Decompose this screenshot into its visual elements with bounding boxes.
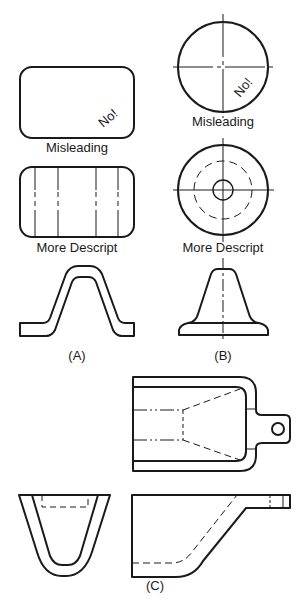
- view-b-descriptive: More Descript: [173, 138, 274, 255]
- view-a-descriptive: More Descript: [20, 167, 134, 255]
- no-annotation: No!: [231, 75, 255, 100]
- hanging-hole: [272, 423, 284, 435]
- label-c: (C): [146, 578, 164, 593]
- hidden-taper-upper: [183, 389, 240, 410]
- label-b: (B): [214, 348, 231, 363]
- descriptive-caption: More Descript: [37, 240, 118, 255]
- rounded-rectangle-outline: [20, 167, 134, 237]
- hat-profile-outline: [20, 266, 134, 336]
- hidden-inner-contour: [132, 495, 237, 563]
- misleading-caption: Misleading: [192, 114, 254, 129]
- profile-b: (B): [179, 258, 268, 363]
- no-annotation: No!: [95, 106, 120, 130]
- view-b-misleading: No! Misleading: [173, 14, 274, 129]
- view-c-front: [19, 495, 110, 576]
- profile-a: (A): [20, 266, 134, 363]
- view-c-side: (C): [132, 495, 290, 593]
- hidden-taper-lower: [183, 440, 240, 460]
- view-a-misleading: No! Misleading: [20, 67, 134, 155]
- side-outline: [132, 495, 290, 577]
- rounded-rectangle-outline: [20, 67, 134, 138]
- misleading-caption: Misleading: [46, 140, 108, 155]
- descriptive-caption: More Descript: [183, 240, 264, 255]
- view-c-top: [133, 377, 290, 471]
- inner-wall: [133, 387, 246, 461]
- hidden-recess: [42, 495, 88, 507]
- label-a: (A): [68, 348, 85, 363]
- top-outline: [133, 377, 290, 471]
- tangent-lines: [35, 167, 118, 237]
- drawing-canvas: No! Misleading More Descript (A): [0, 0, 305, 606]
